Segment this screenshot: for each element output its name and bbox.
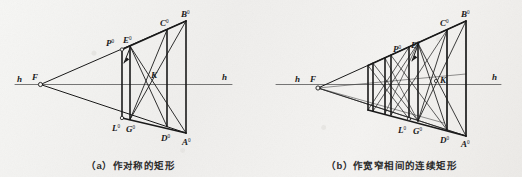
panel-a: h F h P0 E0 C0 B0 K L0 G0 D0 A0 （a）作对称的矩… bbox=[0, 0, 261, 177]
label-D0-a: D0 bbox=[160, 133, 171, 143]
helper-ray-b-1 bbox=[318, 88, 466, 136]
label-E0-a: E0 bbox=[122, 35, 132, 45]
point-marker-L0-a bbox=[120, 116, 123, 119]
diagonal-G0B0 bbox=[130, 21, 186, 120]
label-B0-b: B0 bbox=[460, 9, 470, 19]
diagram-a: h F h P0 E0 C0 B0 K L0 G0 D0 A0 bbox=[0, 0, 261, 177]
point-marker-K-b bbox=[434, 79, 437, 82]
diagonal-b-12 bbox=[385, 43, 418, 113]
diagonal-E0A0 bbox=[130, 46, 186, 133]
label-G0-b: G0 bbox=[413, 126, 423, 136]
diagonal-b-1 bbox=[418, 43, 466, 136]
caption-b: （b）作宽窄相间的连续矩形 bbox=[261, 158, 522, 172]
point-marker-P0-a bbox=[120, 48, 123, 51]
label-A0-a: A0 bbox=[181, 137, 191, 147]
label-L0-a: L0 bbox=[111, 123, 121, 133]
diagonal-b-2 bbox=[418, 21, 466, 121]
vanishing-point-F-b bbox=[316, 86, 320, 90]
label-F-b: F bbox=[309, 74, 316, 84]
label-A0-b: A0 bbox=[460, 139, 470, 149]
label-P0-b: P0 bbox=[393, 44, 402, 54]
label-h-left-b: h bbox=[295, 74, 300, 84]
label-B0-a: B0 bbox=[180, 9, 190, 19]
label-G0-a: G0 bbox=[126, 124, 136, 134]
label-C0-a: C0 bbox=[160, 18, 169, 28]
label-h-left-a: h bbox=[17, 74, 22, 84]
label-F-a: F bbox=[31, 72, 38, 82]
label-K-b: K bbox=[439, 75, 447, 85]
diagram-b: h F h P0 E0 C0 B0 K L0 G0 D0 A0 bbox=[261, 0, 522, 177]
label-h-right-a: h bbox=[222, 72, 227, 82]
caption-a: （a）作对称的矩形 bbox=[0, 158, 261, 172]
diagonal-E0D0 bbox=[130, 46, 167, 127]
vanishing-point-F-a bbox=[38, 82, 42, 86]
panel-b: h F h P0 E0 C0 B0 K L0 G0 D0 A0 （b）作宽窄相间… bbox=[261, 0, 522, 177]
figure-container: h F h P0 E0 C0 B0 K L0 G0 D0 A0 （a）作对称的矩… bbox=[0, 0, 522, 177]
label-D0-b: D0 bbox=[439, 135, 450, 145]
point-marker-L0-b bbox=[407, 117, 410, 120]
label-L0-b: L0 bbox=[397, 125, 407, 135]
label-C0-b: C0 bbox=[440, 18, 449, 28]
label-h-right-b: h bbox=[492, 72, 497, 82]
label-K-a: K bbox=[150, 70, 158, 80]
label-P0-a: P0 bbox=[106, 38, 115, 48]
